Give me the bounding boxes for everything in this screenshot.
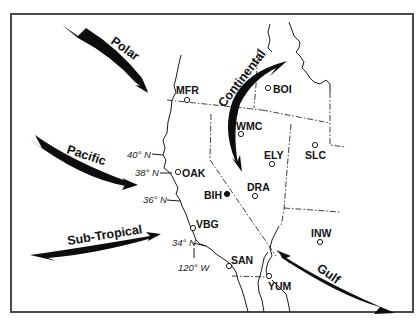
baja-coastline xyxy=(258,252,268,312)
air-mass-map: 40° N 38° N 36° N 34° N 120° W Polar Pac… xyxy=(0,0,420,332)
lat-38-label: 38° N xyxy=(135,167,159,178)
svg-text:WMC: WMC xyxy=(236,120,263,132)
station-san: SAN xyxy=(226,254,253,269)
oregon-idaho-border xyxy=(268,24,272,52)
station-wmc: WMC xyxy=(236,120,263,137)
svg-text:YUM: YUM xyxy=(268,280,292,292)
idaho-wyoming-border xyxy=(330,92,346,147)
station-inw: INW xyxy=(311,227,332,245)
continental-arrowhead-icon xyxy=(232,155,242,172)
svg-text:SAN: SAN xyxy=(231,254,253,266)
svg-text:VBG: VBG xyxy=(196,218,219,230)
svg-text:BIH: BIH xyxy=(204,189,222,201)
utah-arizona-border xyxy=(284,208,340,212)
svg-text:DRA: DRA xyxy=(247,181,270,193)
station-oak: OAK xyxy=(175,167,205,179)
station-ely: ELY xyxy=(264,149,283,167)
lon-120-label: 120° W xyxy=(178,262,210,273)
lat-36-label: 36° N xyxy=(143,194,167,205)
lat-40-tick xyxy=(152,154,163,155)
svg-text:MFR: MFR xyxy=(176,84,199,96)
station-bih: BIH xyxy=(204,189,230,201)
svg-text:OAK: OAK xyxy=(182,167,206,179)
station-yum: YUM xyxy=(266,273,291,292)
pacific-arrow-icon xyxy=(28,135,126,186)
svg-text:ELY: ELY xyxy=(264,149,283,161)
station-slc: SLC xyxy=(305,142,326,161)
lat-36-tick xyxy=(167,200,180,201)
station-boi: BOI xyxy=(265,83,291,95)
svg-text:BOI: BOI xyxy=(273,83,292,95)
svg-text:INW: INW xyxy=(311,227,332,239)
lat-40-label: 40° N xyxy=(127,149,151,160)
station-dra: DRA xyxy=(247,181,270,199)
svg-text:SLC: SLC xyxy=(305,149,326,161)
nevada-idaho-border xyxy=(262,110,330,123)
idaho-montana-border xyxy=(289,22,330,92)
continental-label: Continental xyxy=(215,47,268,110)
gulf-arrow-icon xyxy=(280,254,395,314)
nevada-utah-border xyxy=(281,124,291,226)
station-vbg: VBG xyxy=(190,218,218,231)
lat-34-label: 34° N xyxy=(172,237,196,248)
station-mfr: MFR xyxy=(176,84,199,103)
